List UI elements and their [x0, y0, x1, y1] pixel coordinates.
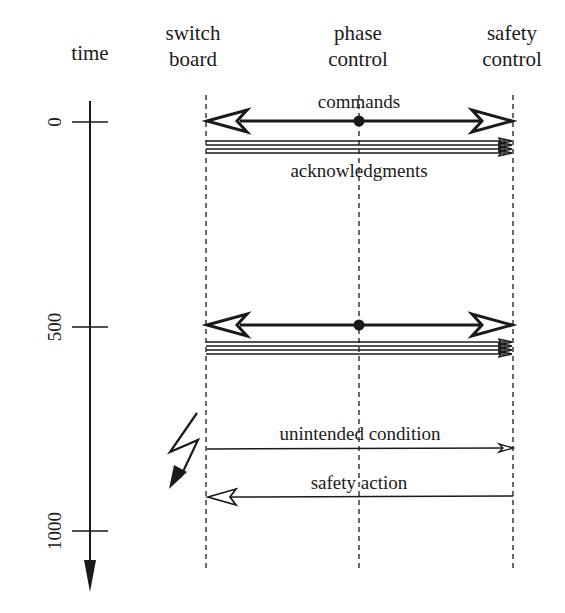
- message-unintended-condition: unintended condition: [207, 423, 513, 452]
- tick-label-0: 0: [44, 117, 65, 127]
- participant-safety-control-line2: control: [482, 47, 542, 71]
- tick-label-1000: 1000: [44, 512, 65, 550]
- origin-dot-icon: [354, 116, 365, 127]
- participant-safety-control-line1: safety: [487, 21, 538, 45]
- acknowledgments-label: acknowledgments: [290, 160, 427, 181]
- message-safety-action: safety action: [208, 472, 513, 505]
- participant-phase-control-line1: phase: [334, 21, 382, 45]
- message-commands-t0: commands: [207, 91, 512, 132]
- time-axis-arrowhead-icon: [84, 560, 96, 592]
- participant-phase-control-line2: control: [328, 47, 388, 71]
- unintended-condition-label: unintended condition: [280, 423, 441, 444]
- header: time switch board phase control safety c…: [71, 21, 542, 71]
- message-acknowledgments-t0: [206, 138, 512, 156]
- commands-label: commands: [318, 91, 400, 112]
- sequence-diagram: time switch board phase control safety c…: [0, 0, 565, 613]
- participant-switch-board-line2: board: [169, 47, 217, 71]
- time-axis-ticks: 0 500 1000: [44, 117, 65, 550]
- time-axis-label: time: [71, 41, 108, 65]
- participant-switch-board-line1: switch: [166, 21, 221, 45]
- time-axis: [72, 101, 108, 592]
- tick-label-500: 500: [44, 313, 65, 342]
- lightning-bolt-icon: [169, 413, 198, 489]
- origin-dot-icon: [354, 320, 365, 331]
- safety-action-label: safety action: [311, 472, 408, 493]
